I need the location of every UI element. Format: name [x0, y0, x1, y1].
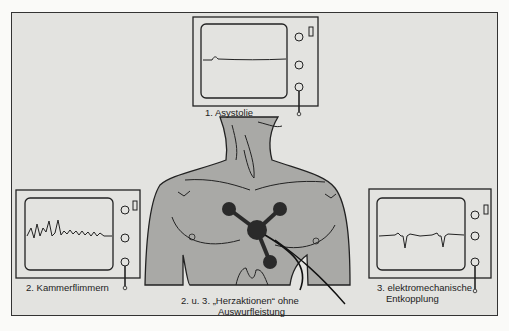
label-center-line1: 2. u. 3. „Herzaktionen“ ohne	[181, 295, 299, 306]
electrode-icon	[263, 255, 277, 269]
label-asystolie: 1. Asystolie	[205, 107, 253, 118]
label-entkopplung-line1: 3. elektromechanische	[377, 282, 472, 293]
monitor-entkopplung	[369, 189, 491, 293]
electrode-icon	[222, 202, 236, 216]
monitor-kammerflimmern	[16, 190, 140, 290]
electrode-icon	[273, 202, 287, 216]
electrode-hub-icon	[247, 220, 267, 240]
monitor-asystolie	[193, 17, 318, 116]
label-center-line2: Auswurfleistung	[218, 306, 285, 317]
label-entkopplung-line2: Entkopplung	[386, 293, 439, 304]
label-kammerflimmern: 2. Kammerflimmern	[26, 282, 109, 293]
torso-illustration	[145, 117, 350, 285]
